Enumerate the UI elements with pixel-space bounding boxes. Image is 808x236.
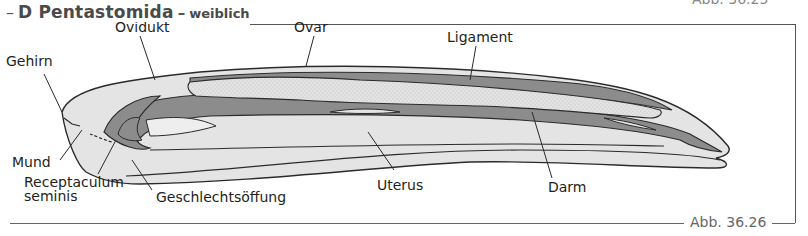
label-mund: Mund (12, 155, 51, 170)
title-subtitle: weiblich (189, 6, 249, 21)
label-ligament: Ligament (447, 30, 513, 45)
pentastomida-diagram (0, 0, 808, 236)
label-geschlechtsoeffnung: Geschlechtsöffung (156, 190, 286, 205)
figure-title: – D Pentastomida – weiblich (6, 2, 256, 22)
label-ovar: Ovar (294, 20, 328, 35)
leader-ovar (306, 36, 314, 66)
leader-gehirn (44, 74, 62, 112)
label-darm: Darm (548, 180, 587, 195)
label-gehirn: Gehirn (6, 54, 53, 69)
label-ovidukt: Ovidukt (115, 20, 170, 35)
leader-ovidukt (140, 36, 155, 80)
title-separator: – (178, 4, 186, 22)
label-uterus: Uterus (377, 178, 423, 193)
title-dash: – (6, 3, 14, 22)
label-receptaculum-line2: seminis (24, 189, 78, 204)
title-main: D Pentastomida (18, 2, 174, 22)
